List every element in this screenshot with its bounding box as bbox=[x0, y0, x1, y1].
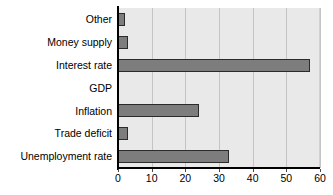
category-label: Inflation bbox=[75, 106, 112, 117]
category-label-cell: Other bbox=[0, 8, 116, 31]
bar-chart: OtherMoney supplyInterest rateGDPInflati… bbox=[0, 0, 333, 195]
category-label: Trade deficit bbox=[55, 128, 112, 139]
bar bbox=[118, 150, 229, 163]
value-axis: 0102030405060 bbox=[118, 169, 320, 191]
category-label: GDP bbox=[89, 83, 112, 94]
x-tick-label: 50 bbox=[280, 173, 292, 184]
x-tick-label: 10 bbox=[146, 173, 158, 184]
category-label-cell: GDP bbox=[0, 77, 116, 100]
x-tick-label: 20 bbox=[179, 173, 191, 184]
category-axis: OtherMoney supplyInterest rateGDPInflati… bbox=[0, 8, 116, 168]
category-label: Unemployment rate bbox=[20, 151, 112, 162]
category-label-cell: Inflation bbox=[0, 99, 116, 122]
gridline bbox=[320, 8, 321, 168]
bar-row bbox=[118, 99, 319, 122]
bar bbox=[118, 127, 128, 140]
bar-row bbox=[118, 145, 319, 168]
bar bbox=[118, 59, 310, 72]
bar-row bbox=[118, 31, 319, 54]
category-label-cell: Unemployment rate bbox=[0, 145, 116, 168]
x-tick-label: 0 bbox=[115, 173, 121, 184]
bar-row bbox=[118, 77, 319, 100]
x-tick-label: 60 bbox=[314, 173, 326, 184]
category-label: Other bbox=[86, 14, 112, 25]
category-label: Interest rate bbox=[56, 60, 112, 71]
y-axis-line bbox=[117, 6, 119, 170]
category-label: Money supply bbox=[47, 37, 112, 48]
bar-row bbox=[118, 122, 319, 145]
bar bbox=[118, 13, 125, 26]
x-tick-label: 40 bbox=[247, 173, 259, 184]
bars-layer bbox=[118, 8, 319, 168]
category-label-cell: Trade deficit bbox=[0, 122, 116, 145]
bar-row bbox=[118, 54, 319, 77]
bar bbox=[118, 36, 128, 49]
category-label-cell: Interest rate bbox=[0, 54, 116, 77]
category-label-cell: Money supply bbox=[0, 31, 116, 54]
plot-area bbox=[118, 8, 320, 168]
bar-row bbox=[118, 8, 319, 31]
x-tick-label: 30 bbox=[213, 173, 225, 184]
bar bbox=[118, 104, 199, 117]
